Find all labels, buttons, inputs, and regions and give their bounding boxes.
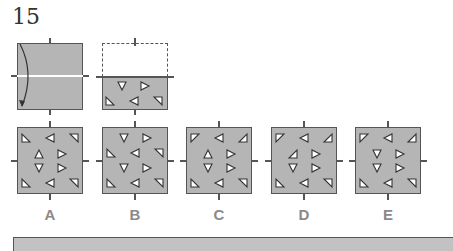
triangle-br-icon — [408, 134, 416, 142]
triangle-down-icon — [289, 164, 297, 172]
triangle-tr-icon — [239, 179, 247, 187]
tick-bottom — [387, 194, 389, 200]
tick-right — [421, 160, 427, 162]
curved-arrow-icon — [17, 43, 83, 110]
tick-bottom — [49, 110, 51, 115]
answer-banner — [13, 237, 453, 251]
triangle-tr-icon — [70, 134, 78, 142]
triangle-bl-icon — [106, 97, 114, 105]
triangle-bl-icon — [191, 179, 199, 187]
step2-figure — [102, 43, 168, 110]
triangle-bl-icon — [276, 179, 284, 187]
option-label-b[interactable]: B — [102, 206, 168, 223]
triangle-tr-icon — [155, 149, 163, 157]
triangle-bl-icon — [107, 179, 115, 187]
triangle-down-icon — [120, 164, 128, 172]
triangle-tl-icon — [360, 134, 368, 142]
triangle-tl-icon — [276, 134, 284, 142]
tick-right — [337, 160, 343, 162]
tick-bottom — [303, 194, 305, 200]
option-a[interactable] — [17, 127, 83, 194]
triangle-down-icon — [120, 134, 128, 142]
triangle-br-icon — [239, 134, 247, 142]
triangle-br-icon — [324, 134, 332, 142]
triangle-bl-icon — [360, 179, 368, 187]
triangle-down-icon — [118, 82, 126, 90]
triangle-tr-icon — [408, 179, 416, 187]
tick-bottom — [134, 194, 136, 200]
tick-right — [83, 160, 89, 162]
tick-right — [252, 160, 258, 162]
triangle-right-icon — [227, 164, 235, 172]
option-label-e[interactable]: E — [355, 206, 421, 223]
triangle-bl-icon — [107, 149, 115, 157]
triangle-left-icon — [300, 134, 308, 142]
triangle-left-icon — [215, 179, 223, 187]
option-e[interactable] — [355, 127, 421, 194]
option-b[interactable] — [102, 127, 168, 194]
unfolded-triangles — [271, 127, 337, 194]
question-number: 15 — [12, 4, 40, 29]
triangle-right-icon — [312, 150, 320, 158]
triangle-tr-icon — [324, 179, 332, 187]
triangle-right-icon — [396, 150, 404, 158]
triangle-left-icon — [46, 179, 54, 187]
option-c[interactable] — [186, 127, 252, 194]
option-label-d[interactable]: D — [271, 206, 337, 223]
triangle-left-icon — [131, 149, 139, 157]
triangle-tr-icon — [70, 179, 78, 187]
triangle-right-icon — [58, 164, 66, 172]
unfolded-triangles — [17, 127, 83, 194]
triangle-up-icon — [204, 150, 212, 158]
triangle-right-icon — [141, 82, 149, 90]
punched-triangles — [102, 43, 168, 110]
triangle-left-icon — [130, 97, 138, 105]
unfolded-triangles — [355, 127, 421, 194]
triangle-br-icon — [289, 150, 297, 158]
triangle-down-icon — [35, 164, 43, 172]
triangle-bl-icon — [22, 134, 30, 142]
tick-bottom — [218, 194, 220, 200]
tick-bottom — [134, 110, 136, 115]
triangle-left-icon — [131, 179, 139, 187]
option-d[interactable] — [271, 127, 337, 194]
tick-right — [168, 160, 174, 162]
tick-bottom — [49, 194, 51, 200]
triangle-down-icon — [204, 164, 212, 172]
unfolded-triangles — [186, 127, 252, 194]
option-label-c[interactable]: C — [186, 206, 252, 223]
triangle-left-icon — [215, 134, 223, 142]
triangle-right-icon — [227, 150, 235, 158]
triangle-up-icon — [35, 150, 43, 158]
triangle-tr-icon — [154, 97, 162, 105]
tick-right — [83, 75, 89, 77]
triangle-tr-icon — [155, 179, 163, 187]
triangle-right-icon — [396, 164, 404, 172]
triangle-left-icon — [300, 179, 308, 187]
unfolded-triangles — [102, 127, 168, 194]
triangle-left-icon — [384, 134, 392, 142]
triangle-tl-icon — [191, 134, 199, 142]
triangle-right-icon — [143, 164, 151, 172]
triangle-right-icon — [58, 150, 66, 158]
triangle-down-icon — [373, 150, 381, 158]
triangle-down-icon — [373, 164, 381, 172]
triangle-bl-icon — [22, 179, 30, 187]
step1-figure — [17, 43, 83, 110]
triangle-left-icon — [46, 134, 54, 142]
triangle-right-icon — [143, 134, 151, 142]
triangle-left-icon — [384, 179, 392, 187]
triangle-right-icon — [312, 164, 320, 172]
option-label-a[interactable]: A — [17, 206, 83, 223]
